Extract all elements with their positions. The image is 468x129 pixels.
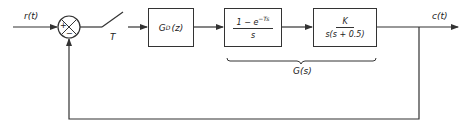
sampler-period-label: T bbox=[110, 33, 116, 42]
sampler-switch bbox=[102, 12, 123, 27]
plant-numerator: K bbox=[336, 17, 353, 28]
output-label: c(t) bbox=[432, 12, 448, 21]
controller-block: GD(z) bbox=[148, 8, 194, 47]
zoh-numerator: 1 − e bbox=[237, 18, 259, 27]
zoh-denominator: s bbox=[251, 29, 255, 40]
zoh-exponent: −Ts bbox=[258, 15, 269, 22]
gs-brace bbox=[227, 58, 376, 64]
input-label: r(t) bbox=[24, 12, 38, 21]
summer-minus-sign: − bbox=[66, 30, 73, 38]
controller-symbol: G bbox=[159, 23, 166, 33]
plant-block: K s(s + 0.5) bbox=[313, 8, 377, 47]
zoh-block: 1 − e−Ts s bbox=[224, 8, 282, 47]
plant-denominator: s(s + 0.5) bbox=[325, 28, 364, 39]
controller-subscript: D bbox=[166, 24, 171, 31]
gs-label: G(s) bbox=[293, 67, 312, 76]
controller-arg: (z) bbox=[171, 23, 183, 33]
